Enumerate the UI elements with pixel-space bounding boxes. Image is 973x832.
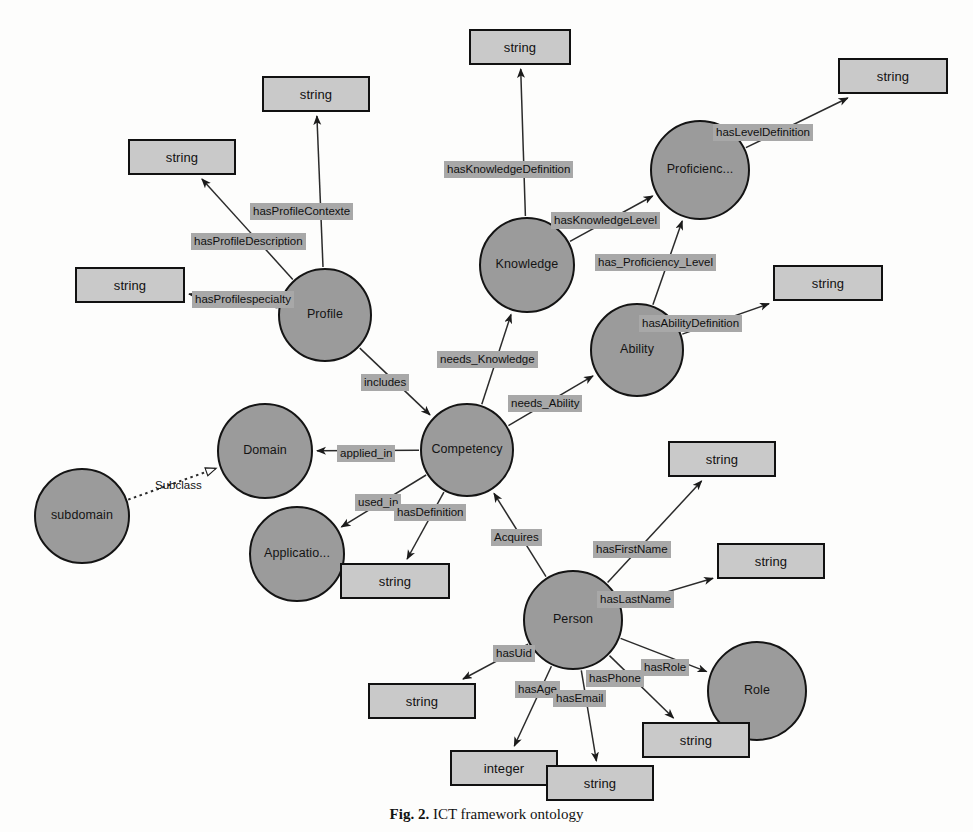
class-node-label: Competency [431, 443, 502, 456]
datatype-box-label: string [300, 87, 332, 102]
datatype-box-label: string [877, 69, 909, 84]
datatype-box-label: string [706, 452, 738, 467]
class-node-label: Role [744, 684, 770, 697]
edge-label-e_knowledge_level: hasKnowledgeLevel [551, 212, 660, 229]
datatype-box-dt_profile_contexte[interactable]: string [262, 76, 370, 112]
datatype-box-dt_uid[interactable]: string [368, 683, 476, 719]
datatype-box-label: string [504, 40, 536, 55]
class-node-profile[interactable]: Profile [278, 268, 372, 362]
class-node-label: Person [553, 613, 593, 626]
datatype-box-dt_profile_specialty[interactable]: string [75, 267, 185, 303]
datatype-box-dt_phone[interactable]: string [642, 722, 750, 758]
edge-label-e_profile_desc: hasProfileDescription [191, 233, 306, 250]
datatype-box-dt_profile_desc[interactable]: string [128, 139, 236, 175]
ontology-diagram-canvas: ProfileKnowledgeProficienc...AbilityComp… [0, 0, 973, 832]
class-node-knowledge[interactable]: Knowledge [479, 217, 575, 313]
edge-label-e_first_name: hasFirstName [593, 541, 671, 558]
edge-label-e_last_name: hasLastName [597, 591, 674, 608]
edge-label-e_uid: hasUid [493, 645, 535, 662]
edge-e_has_definition [407, 492, 444, 559]
class-node-subdomain[interactable]: subdomain [34, 468, 130, 564]
datatype-box-dt_knowledge_def[interactable]: string [469, 29, 571, 65]
datatype-box-label: string [812, 276, 844, 291]
figure-number: Fig. 2. [390, 806, 430, 822]
datatype-box-label: integer [484, 761, 524, 776]
datatype-box-label: string [406, 694, 438, 709]
edge-label-e_email: hasEmail [553, 690, 606, 707]
datatype-box-dt_email[interactable]: string [546, 765, 654, 801]
datatype-box-dt_competency_def[interactable]: string [340, 563, 450, 599]
edge-label-e_ability_def: hasAbilityDefinition [639, 315, 742, 332]
datatype-box-dt_first_name[interactable]: string [668, 441, 776, 477]
class-node-label: Proficienc... [667, 163, 734, 176]
edge-label-e_knowledge_def: hasKnowledgeDefinition [444, 161, 573, 178]
edge-e_first_name [608, 481, 702, 583]
edge-label-e_has_definition: hasDefinition [394, 504, 466, 521]
edge-label-e_proficiency_level: has_Proficiency_Level [595, 254, 716, 271]
edge-e_age [514, 666, 551, 746]
datatype-box-label: string [166, 150, 198, 165]
edge-label-e_needs_ability: needs_Ability [508, 395, 582, 412]
datatype-box-label: string [379, 574, 411, 589]
edge-label-e_needs_knowledge: needs_Knowledge [437, 351, 538, 368]
edge-e_knowledge_def [521, 69, 526, 216]
class-node-label: Domain [243, 444, 287, 457]
datatype-box-label: string [680, 733, 712, 748]
edge-label-e_level_def: hasLevelDefinition [713, 124, 813, 141]
class-node-person[interactable]: Person [523, 570, 623, 670]
datatype-box-dt_age[interactable]: integer [450, 750, 558, 786]
edge-label-e_acquires: Acquires [491, 529, 542, 546]
edge-label-e_applied_in: applied_in [337, 445, 395, 462]
edge-label-e_includes: includes [361, 374, 409, 391]
edge-label-e_subclass: Subclass [152, 477, 205, 494]
class-node-application[interactable]: Applicatio... [249, 506, 345, 602]
class-node-domain[interactable]: Domain [217, 403, 313, 499]
edge-label-e_profile_specialty: hasProfilespecialty [192, 291, 294, 308]
class-node-label: Profile [307, 308, 343, 321]
class-node-label: Applicatio... [264, 547, 330, 560]
datatype-box-dt_ability_def[interactable]: string [773, 265, 883, 301]
figure-caption: Fig. 2. ICT framework ontology [0, 806, 973, 823]
edge-label-e_profile_contexte: hasProfileContexte [250, 203, 353, 220]
datatype-box-dt_last_name[interactable]: string [717, 543, 825, 579]
edge-label-e_role: hasRole [641, 659, 689, 676]
class-node-competency[interactable]: Competency [420, 403, 514, 497]
class-node-label: subdomain [51, 509, 113, 522]
datatype-box-label: string [114, 278, 146, 293]
datatype-box-dt_level_def[interactable]: string [838, 58, 948, 94]
edge-label-e_phone: hasPhone [586, 670, 644, 687]
edge-e_profile_contexte [317, 116, 323, 267]
edge-e_profile_desc [202, 179, 293, 279]
class-node-label: Knowledge [496, 258, 559, 271]
datatype-box-label: string [755, 554, 787, 569]
datatype-box-label: string [584, 776, 616, 791]
figure-caption-text: ICT framework ontology [433, 806, 584, 822]
class-node-label: Ability [620, 343, 654, 356]
